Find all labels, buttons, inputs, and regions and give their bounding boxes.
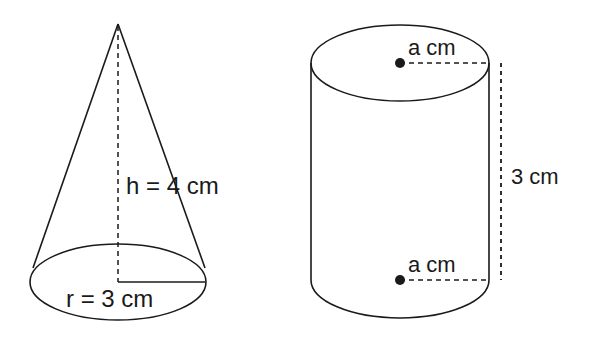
- cylinder-top-radius-label: a cm: [408, 35, 456, 60]
- cylinder-top-center-dot: [395, 58, 405, 68]
- diagram-canvas: h = 4 cm r = 3 cm a cm a cm 3 cm: [0, 0, 599, 345]
- cone-radius-label: r = 3 cm: [66, 285, 153, 312]
- cylinder-bottom-radius-label: a cm: [408, 252, 456, 277]
- cylinder-height-label: 3 cm: [511, 164, 559, 189]
- cylinder-bottom-center-dot: [395, 275, 405, 285]
- cone-height-label: h = 4 cm: [126, 172, 219, 199]
- cone-left-edge: [33, 24, 118, 268]
- cylinder-bottom: [311, 280, 489, 318]
- cone-right-edge: [118, 24, 205, 268]
- cylinder-figure: [311, 25, 501, 318]
